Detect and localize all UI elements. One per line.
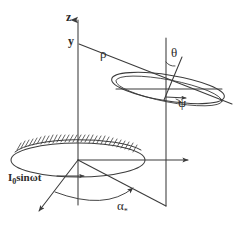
upper-ellipse-inner (114, 70, 224, 112)
y-axis-label: y (68, 35, 74, 47)
z-axis-label: z (66, 11, 71, 23)
theta-label: θ (171, 46, 177, 59)
alpha-angle-label: α* (117, 199, 128, 216)
alpha-symbol: α (117, 198, 124, 213)
psi-label: ψ (178, 96, 186, 109)
theta-arc (166, 62, 175, 66)
rho-label: ρ (100, 47, 107, 60)
source-current-label: I0sinωt (8, 172, 41, 186)
down-left-direction-arrow (39, 160, 78, 211)
alpha-subscript: * (124, 207, 128, 216)
upper-ellipse (110, 66, 227, 110)
diagram-canvas: z y ρ θ ψ I0sinωt α* (0, 0, 243, 232)
source-current-expression: sinωt (16, 171, 41, 183)
